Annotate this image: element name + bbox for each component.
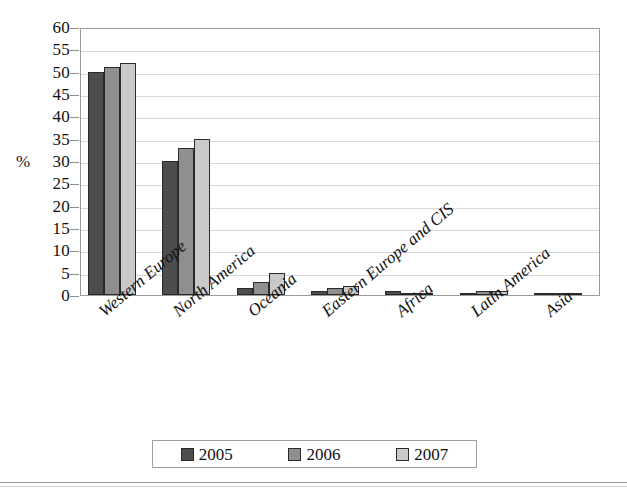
legend-item[interactable]: 2005 <box>181 446 233 463</box>
footer-divider-secondary <box>0 486 627 487</box>
y-axis-tick-label: 20 <box>36 198 70 215</box>
y-axis-tick-label: 55 <box>36 41 70 58</box>
y-axis-tick-label: 45 <box>36 86 70 103</box>
bar <box>385 291 401 295</box>
footer-divider <box>0 482 627 483</box>
x-axis-category-labels: Western EuropeNorth AmericaOceaniaEaster… <box>0 298 627 428</box>
y-axis-tick-mark <box>70 251 79 252</box>
y-axis-tick-mark <box>70 73 79 74</box>
legend-swatch-icon <box>288 448 301 461</box>
y-axis-tick-mark <box>70 117 79 118</box>
bar <box>178 148 194 295</box>
bar-group <box>88 27 136 295</box>
y-axis-tick-mark <box>70 140 79 141</box>
y-axis-tick-label: 5 <box>36 265 70 282</box>
bar-group <box>460 27 508 295</box>
y-axis-tick-label: 60 <box>36 19 70 36</box>
y-axis-tick-mark <box>70 28 79 29</box>
y-axis-tick-mark <box>70 50 79 51</box>
y-axis-tick-mark <box>70 296 79 297</box>
bar <box>88 72 104 295</box>
bar-group <box>311 27 359 295</box>
bar <box>162 161 178 295</box>
y-axis-tick-label: 10 <box>36 242 70 259</box>
y-axis-unit-label: % <box>16 153 30 170</box>
legend-item[interactable]: 2006 <box>288 446 340 463</box>
chart-legend: 200520062007 <box>152 440 477 468</box>
y-axis-tick-label: 40 <box>36 108 70 125</box>
y-axis-tick-mark <box>70 95 79 96</box>
y-axis-tick-mark <box>70 184 79 185</box>
y-axis-tick-mark <box>70 274 79 275</box>
bar <box>534 293 550 295</box>
legend-swatch-icon <box>181 448 194 461</box>
chart-figure: 605550454035302520151050 % Western Europ… <box>0 0 627 496</box>
bar <box>104 67 120 295</box>
legend-label: 2006 <box>306 446 340 463</box>
y-axis-tick-mark <box>70 207 79 208</box>
legend-label: 2005 <box>199 446 233 463</box>
y-axis-tick-mark <box>70 162 79 163</box>
y-axis-tick-label: 15 <box>36 220 70 237</box>
y-axis-tick-label: 30 <box>36 153 70 170</box>
legend-item[interactable]: 2007 <box>396 446 448 463</box>
y-axis-tick-mark <box>70 229 79 230</box>
bar <box>120 63 136 295</box>
y-axis-tick-label: 50 <box>36 64 70 81</box>
y-axis-tick-label: 25 <box>36 175 70 192</box>
y-axis-tick-label: 35 <box>36 131 70 148</box>
legend-swatch-icon <box>396 448 409 461</box>
bar <box>460 293 476 295</box>
bar <box>237 288 253 295</box>
bar <box>311 291 327 295</box>
legend-label: 2007 <box>414 446 448 463</box>
